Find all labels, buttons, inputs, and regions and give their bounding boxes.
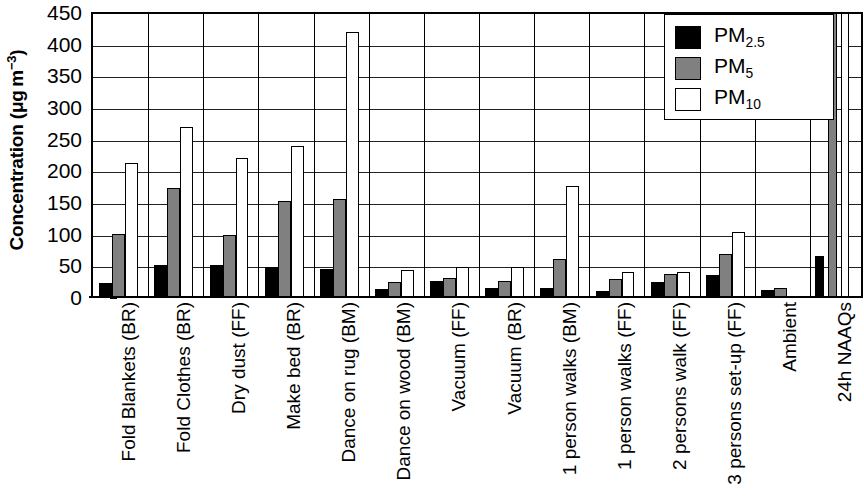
x-tick-label: Dance on rug (BM) <box>339 302 358 463</box>
bar-group <box>369 14 424 297</box>
bar-pm10 <box>841 12 850 297</box>
y-axis-title-text: Concentration (μg m−3) <box>4 50 28 251</box>
bar-pm5 <box>278 201 291 297</box>
x-tick-label-slot: 1 person walks (BM) <box>532 300 587 498</box>
bar-pm10 <box>291 146 304 297</box>
bar-pm5 <box>443 278 456 297</box>
x-tick-label-slot: 1 person walks (FF) <box>587 300 642 498</box>
x-tick-label: Vacuum (FF) <box>449 302 468 411</box>
x-tick-label: Vacuum (BR) <box>505 302 524 415</box>
bar-pm10 <box>677 272 690 297</box>
bar-pm2-5 <box>99 283 112 297</box>
bar-pm5 <box>112 234 125 297</box>
x-tick-label-slot: Dance on wood (BM) <box>367 300 422 498</box>
legend-swatch-pm5 <box>675 57 701 80</box>
x-axis-tick-labels: Fold Blankets (BR)Fold Clothes (BR)Dry d… <box>91 300 863 498</box>
x-tick-label: Make bed (BR) <box>284 302 303 430</box>
legend-item: PM5 <box>675 53 833 84</box>
category-separator <box>644 14 645 297</box>
bar-pm10 <box>236 158 249 297</box>
bar-pm10 <box>180 127 193 297</box>
x-tick-label-slot: Fold Clothes (BR) <box>146 300 201 498</box>
bar-group <box>93 14 148 297</box>
legend-item: PM2.5 <box>675 22 833 53</box>
y-tick-label: 100 <box>26 223 82 244</box>
category-separator <box>534 14 535 297</box>
bar-pm2-5 <box>430 281 443 297</box>
x-tick-label-slot: Make bed (BR) <box>256 300 311 498</box>
category-separator <box>424 14 425 297</box>
y-tick-label: 200 <box>26 160 82 181</box>
category-separator <box>314 14 315 297</box>
bar-pm10 <box>732 232 745 297</box>
category-separator <box>479 14 480 297</box>
x-axis-baseline <box>89 296 863 298</box>
bar-pm10 <box>456 267 469 297</box>
bar-pm5 <box>167 188 180 297</box>
y-tick-label: 50 <box>26 255 82 276</box>
x-tick-label-slot: 24h NAAQs <box>808 300 863 498</box>
bar-pm2-5 <box>210 265 223 297</box>
x-tick-label-slot: Ambient <box>753 300 808 498</box>
category-separator <box>203 14 204 297</box>
category-separator <box>369 14 370 297</box>
x-tick-label: 3 persons set-up (FF) <box>725 302 744 485</box>
bar-pm10 <box>401 270 414 297</box>
bar-pm5 <box>498 281 511 297</box>
bar-group <box>148 14 203 297</box>
y-axis-tick-labels: 050100150200250300350400450 <box>26 0 82 300</box>
x-tick-label-slot: 2 persons walk (FF) <box>642 300 697 498</box>
bar-pm5 <box>553 259 566 297</box>
legend-label: PM10 <box>714 86 761 112</box>
y-tick-label: 400 <box>26 33 82 54</box>
y-tick-label: 450 <box>26 2 82 23</box>
category-separator <box>589 14 590 297</box>
x-tick-label: 2 persons walk (FF) <box>670 302 689 470</box>
bar-pm2-5 <box>320 269 333 298</box>
bar-pm10 <box>566 186 579 297</box>
bar-pm10 <box>346 32 359 297</box>
legend-swatch-pm25 <box>675 26 701 49</box>
bar-group <box>258 14 313 297</box>
y-tick-label: 150 <box>26 192 82 213</box>
x-tick-label-slot: Dance on rug (BM) <box>312 300 367 498</box>
x-tick-label-slot: Vacuum (FF) <box>422 300 477 498</box>
x-tick-label: 24h NAAQs <box>835 302 854 402</box>
legend-label: PM5 <box>714 55 753 81</box>
bar-pm2-5 <box>154 265 167 297</box>
bar-group <box>203 14 258 297</box>
legend-item: PM10 <box>675 84 833 115</box>
legend-label: PM2.5 <box>714 24 765 50</box>
y-tick-label: 300 <box>26 97 82 118</box>
bar-pm10 <box>622 272 635 297</box>
bar-group <box>424 14 479 297</box>
y-tick-label: 0 <box>26 287 82 308</box>
x-tick-label-slot: Dry dust (FF) <box>201 300 256 498</box>
bar-pm2-5 <box>815 256 824 297</box>
category-separator <box>258 14 259 297</box>
x-tick-label: Fold Blankets (BR) <box>119 302 138 461</box>
y-tick-label: 250 <box>26 128 82 149</box>
x-tick-label-slot: Vacuum (BR) <box>477 300 532 498</box>
bar-pm5 <box>719 254 732 297</box>
x-tick-label: Ambient <box>780 302 799 372</box>
bar-pm10 <box>125 163 138 297</box>
bar-pm5 <box>664 274 677 297</box>
bar-group <box>479 14 534 297</box>
bar-group <box>534 14 589 297</box>
x-tick-label: Dry dust (FF) <box>229 302 248 414</box>
x-tick-label: Fold Clothes (BR) <box>174 302 193 453</box>
x-tick-label-slot: 3 persons set-up (FF) <box>698 300 753 498</box>
bar-pm5 <box>388 282 401 297</box>
bar-chart-figure: Concentration (μg m−3) 05010015020025030… <box>0 0 864 498</box>
bar-pm5 <box>333 199 346 297</box>
legend: PM2.5PM5PM10 <box>664 14 834 120</box>
bar-pm2-5 <box>651 282 664 297</box>
x-tick-label: 1 person walks (FF) <box>615 302 634 470</box>
bar-pm10 <box>511 267 524 297</box>
bar-pm2-5 <box>706 275 719 297</box>
x-tick-label: Dance on wood (BM) <box>394 302 413 480</box>
bar-pm5 <box>223 235 236 297</box>
x-tick-label-slot: Fold Blankets (BR) <box>91 300 146 498</box>
bar-pm2-5 <box>265 267 278 297</box>
